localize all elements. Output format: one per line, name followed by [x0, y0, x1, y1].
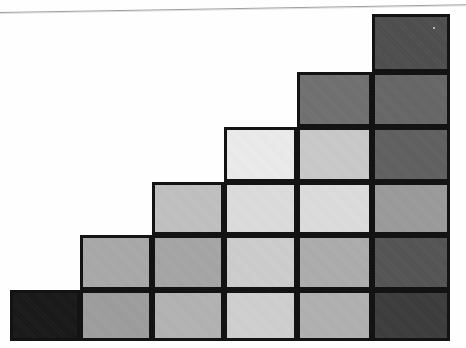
- grid-cell-r2-c5: [297, 72, 372, 127]
- grid-cell-r5-c5: [297, 235, 372, 290]
- grid-cell-r6-c3: [152, 290, 224, 341]
- grid-cell-r5-c3: [152, 235, 224, 290]
- grid-cell-r4-c6: [372, 182, 450, 235]
- grid-cell-r5-c6: [372, 235, 450, 290]
- grid-cell-r6-c5: [297, 290, 372, 341]
- grid-cell-r6-c4: [224, 290, 297, 341]
- grid-cell-r3-c6: [372, 127, 450, 182]
- grid-cell-r5-c4: [224, 235, 297, 290]
- grid-cell-r6-c6: [372, 290, 450, 341]
- paper-speck-artifact: [433, 27, 435, 29]
- grid-cell-r4-c4: [224, 182, 297, 235]
- grid-cell-r3-c4: [224, 127, 297, 182]
- grid-cell-r5-c2: [80, 235, 152, 290]
- grid-cell-r6-c2: [80, 290, 152, 341]
- grid-cell-r4-c5: [297, 182, 372, 235]
- grid-cell-r2-c6: [372, 72, 450, 127]
- grid-cell-r1-c6: [372, 14, 450, 72]
- grid-cell-r6-c1: [10, 290, 80, 341]
- grid-cell-r3-c5: [297, 127, 372, 182]
- grid-cell-r4-c3: [152, 182, 224, 235]
